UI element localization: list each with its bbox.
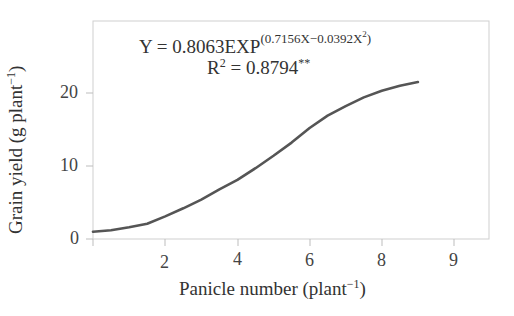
y-label-sup: −1 xyxy=(4,72,18,85)
x-tick-label: 8 xyxy=(377,250,386,271)
y-axis-label: Grain yield (g plant−1) xyxy=(4,66,27,234)
r2-value: = 0.8794 xyxy=(226,57,298,78)
x-tick-label: 6 xyxy=(305,250,314,271)
x-label-sup: −1 xyxy=(347,277,360,291)
x-label-close: ) xyxy=(360,278,366,299)
y-label-close: ) xyxy=(5,66,26,72)
y-tick-label: 0 xyxy=(70,228,79,249)
y-axis-ticks xyxy=(86,93,93,239)
x-axis-label: Panicle number (plant−1) xyxy=(179,277,366,300)
fitted-curve-line xyxy=(93,82,418,232)
exponent-square: 2 xyxy=(362,29,367,39)
equation-base: Y = 0.8063EXP xyxy=(139,36,260,57)
x-label-text: Panicle number (plant xyxy=(179,278,347,299)
r-squared-annotation: R2 = 0.8794** xyxy=(207,56,310,79)
exponent-close: ) xyxy=(367,31,371,46)
x-tick-label: 9 xyxy=(449,250,458,271)
r2-letter: R xyxy=(207,57,220,78)
equation-exponent: (0.7156X−0.0392X2) xyxy=(260,31,371,46)
significance-stars: ** xyxy=(298,56,310,70)
y-tick-label: 20 xyxy=(60,82,78,103)
y-label-text: Grain yield (g plant xyxy=(5,85,26,234)
x-tick-label: 4 xyxy=(233,249,242,270)
y-tick-label: 10 xyxy=(60,155,78,176)
x-tick-label: 2 xyxy=(160,252,169,273)
exponent-text: (0.7156X−0.0392X xyxy=(260,31,362,46)
regression-equation: Y = 0.8063EXP(0.7156X−0.0392X2) xyxy=(139,32,371,58)
x-axis-ticks xyxy=(93,239,454,246)
